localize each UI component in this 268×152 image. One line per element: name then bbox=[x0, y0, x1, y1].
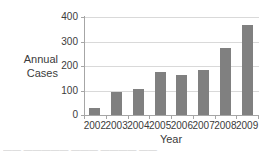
x-tick-label: 2009 bbox=[233, 120, 261, 131]
bar bbox=[198, 70, 209, 115]
bar bbox=[242, 25, 253, 115]
x-tick-mark bbox=[193, 116, 194, 119]
bar bbox=[220, 48, 231, 115]
y-tick-label: 200 bbox=[52, 61, 78, 71]
bar bbox=[176, 75, 187, 115]
x-tick-mark bbox=[128, 116, 129, 119]
y-axis-title: AnnualCases bbox=[2, 52, 58, 80]
y-tick-label: 300 bbox=[52, 37, 78, 47]
x-tick-mark bbox=[171, 116, 172, 119]
y-tick-label: 0 bbox=[52, 110, 78, 120]
x-tick-mark bbox=[149, 116, 150, 119]
bar bbox=[133, 89, 144, 115]
bar bbox=[111, 92, 122, 115]
x-tick-mark bbox=[106, 116, 107, 119]
bar-chart-figure: AnnualCases 0100200300400 20022003200420… bbox=[0, 0, 268, 152]
x-tick-mark bbox=[215, 116, 216, 119]
caption-partial: —— ————— ——— ———— —— bbox=[3, 145, 243, 152]
y-tick-label: 400 bbox=[52, 12, 78, 22]
bar bbox=[155, 72, 166, 115]
bar bbox=[89, 108, 100, 115]
y-tick-label: 100 bbox=[52, 86, 78, 96]
x-tick-mark bbox=[258, 116, 259, 119]
bars-group bbox=[84, 17, 258, 115]
x-tick-mark bbox=[84, 116, 85, 119]
x-tick-mark bbox=[236, 116, 237, 119]
